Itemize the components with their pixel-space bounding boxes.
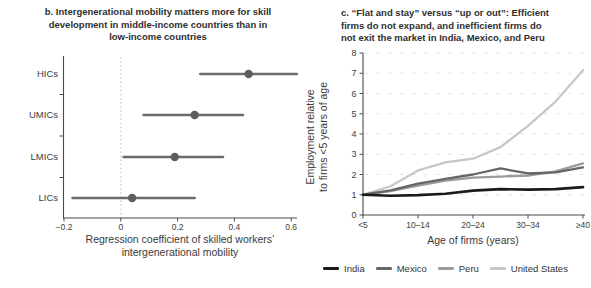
legend-item-india: India xyxy=(323,263,365,274)
c-y-tick-label: 8 xyxy=(351,48,356,58)
c-x-tick-label: 30–34 xyxy=(516,220,540,230)
legend-swatch-india xyxy=(323,267,339,270)
b-row-lics: LICs xyxy=(38,192,194,203)
c-x-tick-label: 20–24 xyxy=(461,220,485,230)
legend-swatch-peru xyxy=(438,267,454,270)
c-y-tick-label: 3 xyxy=(351,149,356,159)
legend-label-peru: Peru xyxy=(459,263,479,274)
c-y-tick-label: 5 xyxy=(351,109,356,119)
b-estimate-dot xyxy=(128,194,136,202)
legend-item-united-states: United States xyxy=(490,263,568,274)
panel-c-yaxis-label: Employment relative to firms <5 years of… xyxy=(304,57,330,217)
panel-c-xaxis-label: Age of firms (years) xyxy=(363,234,583,247)
panel-b-xaxis-label: Regression coefficient of skilled worker… xyxy=(50,233,310,259)
b-estimate-dot xyxy=(244,70,252,78)
b-row-lmics: LMICs xyxy=(31,151,223,162)
legend-swatch-mexico xyxy=(376,267,392,270)
legend-item-mexico: Mexico xyxy=(376,263,427,274)
b-category-label: LMICs xyxy=(31,151,59,162)
b-estimate-dot xyxy=(171,153,179,161)
legend-label-mexico: Mexico xyxy=(397,263,427,274)
b-category-label: UMICs xyxy=(29,109,58,120)
c-y-tick-label: 6 xyxy=(351,89,356,99)
legend-label-united-states: United States xyxy=(511,263,568,274)
c-x-tick-label: 10–14 xyxy=(406,220,430,230)
b-row-hics: HICs xyxy=(37,68,297,79)
c-y-tick-label: 4 xyxy=(351,129,356,139)
c-x-tick-label: <5 xyxy=(358,220,368,230)
c-y-tick-label: 2 xyxy=(351,170,356,180)
b-x-tick-label: 0.4 xyxy=(228,222,240,232)
b-category-label: HICs xyxy=(37,68,58,79)
c-y-tick-label: 7 xyxy=(351,68,356,78)
b-x-tick-label: 0.6 xyxy=(285,222,297,232)
figure: b. Intergenerational mobility matters mo… xyxy=(0,0,591,288)
c-y-tick-label: 0 xyxy=(351,210,356,220)
b-x-tick-label: 0 xyxy=(118,222,123,232)
b-category-label: LICs xyxy=(38,192,58,203)
b-estimate-dot xyxy=(190,111,198,119)
b-row-umics: UMICs xyxy=(29,109,243,120)
b-x-tick-label: 0.2 xyxy=(172,222,184,232)
c-x-tick-label: ≥40 xyxy=(576,220,590,230)
legend: IndiaMexicoPeruUnited States xyxy=(305,263,586,274)
b-x-tick-label: −0.2 xyxy=(56,222,73,232)
legend-label-india: India xyxy=(344,263,365,274)
legend-swatch-united-states xyxy=(490,267,506,270)
series-line-united-states xyxy=(363,70,583,195)
legend-item-peru: Peru xyxy=(438,263,479,274)
c-y-tick-label: 1 xyxy=(351,190,356,200)
